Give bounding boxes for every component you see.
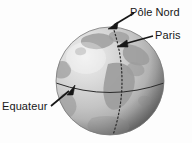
label-pole-nord: Pôle Nord (130, 6, 180, 18)
label-equateur: Equateur (2, 100, 47, 112)
globe-illustration (0, 0, 192, 143)
globe-figure: Pôle Nord Paris Equateur (0, 0, 192, 143)
label-paris: Paris (155, 29, 181, 41)
globe-highlight (66, 42, 106, 74)
globe-rim-shading (56, 27, 164, 135)
